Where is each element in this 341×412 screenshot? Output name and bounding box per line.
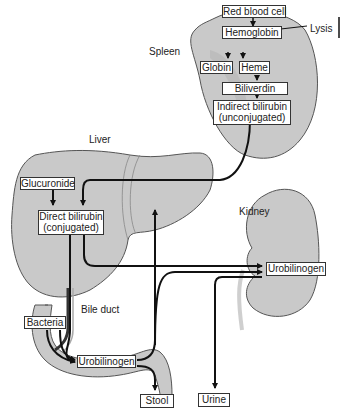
globin-node: Globin	[200, 61, 233, 74]
indirect-bilirubin-line1: Indirect bilirubin	[214, 101, 290, 112]
urobilinogen-kidney-node: Urobilinogen	[266, 262, 326, 276]
urobilinogen-gut-node: Urobilinogen	[77, 355, 136, 368]
direct-bilirubin-node: Direct bilirubin (conjugated)	[38, 210, 104, 235]
biliverdin-node: Biliverdin	[222, 82, 288, 95]
lysis-label: Lysis	[310, 23, 332, 34]
liver-label: Liver	[89, 134, 111, 145]
red-blood-cell-node: Red blood cell	[222, 5, 286, 18]
urine-node: Urine	[198, 393, 230, 407]
direct-bilirubin-line1: Direct bilirubin	[39, 211, 103, 222]
stool-node: Stool	[140, 394, 174, 408]
hemoglobin-node: Hemoglobin	[222, 26, 282, 39]
kidney-label: Kidney	[239, 206, 270, 217]
bacteria-node: Bacteria	[24, 316, 66, 329]
spleen-label: Spleen	[149, 46, 180, 57]
indirect-bilirubin-line2: (unconjugated)	[214, 112, 290, 123]
diagram-canvas	[0, 0, 341, 412]
glucuronide-node: Glucuronide	[20, 177, 75, 190]
bile-duct-label: Bile duct	[81, 304, 119, 315]
heme-node: Heme	[239, 61, 270, 74]
indirect-bilirubin-node: Indirect bilirubin (unconjugated)	[213, 100, 291, 125]
direct-bilirubin-line2: (conjugated)	[39, 222, 103, 233]
